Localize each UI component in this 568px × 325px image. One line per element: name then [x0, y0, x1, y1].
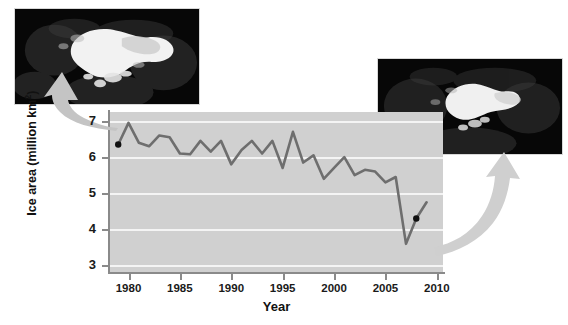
ice-area-line — [118, 123, 426, 244]
y-axis-tick-label: 7 — [72, 114, 96, 127]
x-axis-tick — [231, 274, 233, 280]
x-axis-tick-label: 2005 — [360, 283, 410, 295]
x-axis-tick-label: 1995 — [258, 283, 308, 295]
y-axis-tick — [102, 229, 108, 231]
x-axis-tick — [437, 274, 439, 280]
y-axis-tick-label: 4 — [72, 222, 96, 235]
minimum-point — [413, 215, 419, 221]
ice-area-markers — [115, 141, 419, 221]
ice-area-figure: Ice area (million km2) Year 345671980198… — [0, 0, 568, 325]
x-axis-tick-label: 1990 — [206, 283, 256, 295]
y-axis-title-text: Ice area (million km — [25, 100, 39, 216]
y-axis-tick-label: 5 — [72, 186, 96, 199]
x-axis-tick — [334, 274, 336, 280]
x-axis-tick-label: 2010 — [412, 283, 462, 295]
arrow-to-right-inset — [434, 152, 520, 256]
x-axis-tick-label: 1985 — [155, 283, 205, 295]
x-axis-tick — [385, 274, 387, 280]
arctic-ice-1979-image — [15, 9, 199, 104]
x-axis-tick-label: 1980 — [104, 283, 154, 295]
x-axis-title: Year — [110, 299, 443, 314]
y-axis-title: Ice area (million km2) — [23, 78, 39, 228]
y-axis-tick — [102, 121, 108, 123]
y-axis-title-tail: ) — [25, 90, 39, 94]
y-axis-tick — [102, 157, 108, 159]
y-axis-tick — [102, 265, 108, 267]
y-axis-tick-label: 6 — [72, 150, 96, 163]
ice-area-series — [110, 112, 443, 272]
y-axis-title-exponent: 2 — [23, 95, 33, 100]
x-axis-tick — [180, 274, 182, 280]
arctic-sea-ice-1979-inset — [14, 8, 200, 105]
start-point — [115, 141, 121, 147]
y-axis-tick — [102, 193, 108, 195]
y-axis-tick-label: 3 — [72, 258, 96, 271]
x-axis-tick-label: 2000 — [309, 283, 359, 295]
x-axis-tick — [129, 274, 131, 280]
x-axis-tick — [283, 274, 285, 280]
x-axis-line — [108, 272, 445, 274]
